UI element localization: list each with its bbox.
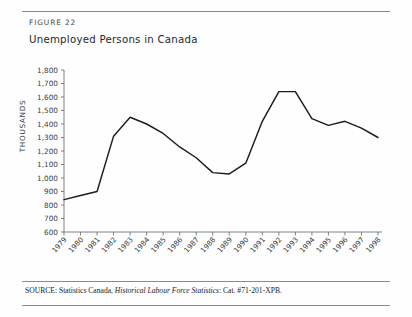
source-publication-title: Historical Labour Force Statistics xyxy=(115,286,219,295)
x-axis-tick-label: 1981 xyxy=(83,235,102,254)
x-axis-tick-label: 1997 xyxy=(347,235,366,254)
y-axis-tick-label: 1,100 xyxy=(37,160,58,169)
x-axis-tick-label: 1998 xyxy=(364,235,383,255)
y-axis-tick-label: 1,700 xyxy=(37,79,58,88)
source-note: SOURCE: Statistics Canada, Historical La… xyxy=(25,286,282,295)
x-axis-tick-label: 1993 xyxy=(281,235,300,254)
x-axis-tick-label: 1987 xyxy=(182,235,201,254)
y-axis-tick-label: 1,300 xyxy=(37,133,58,142)
x-axis-tick-label: 1984 xyxy=(132,235,151,255)
x-axis-tick-label: 1990 xyxy=(232,235,251,255)
y-axis-tick-label: 1,600 xyxy=(37,93,58,102)
source-suffix: : Cat. #71-201-XPB. xyxy=(219,286,282,295)
x-axis-tick-label: 1982 xyxy=(99,235,118,254)
x-axis-tick-label: 1992 xyxy=(265,235,284,254)
top-divider xyxy=(22,11,390,12)
y-axis-tick-label: 900 xyxy=(44,187,58,196)
x-axis-tick-label: 1980 xyxy=(66,235,85,255)
x-axis-tick-label: 1989 xyxy=(215,235,234,255)
figure-label: FIGURE 22 xyxy=(29,18,76,27)
bottom-divider xyxy=(22,305,390,306)
x-axis-tick-label: 1983 xyxy=(116,235,135,254)
y-axis-tick-label: 800 xyxy=(44,201,58,210)
x-axis-tick-label: 1988 xyxy=(198,235,217,255)
source-divider xyxy=(22,281,390,282)
y-axis-tick-label: 1,000 xyxy=(37,174,58,183)
chart-area: THOUSANDS 6007008009001,0001,1001,2001,3… xyxy=(0,56,412,281)
data-series-line xyxy=(64,92,378,200)
y-axis-tick-label: 1,500 xyxy=(37,106,58,115)
line-chart: 6007008009001,0001,1001,2001,3001,4001,5… xyxy=(0,56,412,281)
y-axis-tick-label: 600 xyxy=(44,228,58,237)
figure-title: Unemployed Persons in Canada xyxy=(29,34,198,45)
x-axis-tick-label: 1995 xyxy=(314,235,333,254)
source-prefix: SOURCE: Statistics Canada, xyxy=(25,286,115,295)
x-axis-tick-label: 1996 xyxy=(331,235,350,255)
x-axis-tick-label: 1986 xyxy=(165,235,184,255)
y-axis-tick-label: 1,200 xyxy=(37,147,58,156)
y-axis-tick-label: 1,800 xyxy=(37,66,58,75)
y-axis-tick-label: 700 xyxy=(44,214,58,223)
figure-page: FIGURE 22 Unemployed Persons in Canada T… xyxy=(0,0,412,317)
x-axis-tick-label: 1991 xyxy=(248,235,267,254)
x-axis-tick-label: 1985 xyxy=(149,235,168,254)
x-axis-tick-label: 1979 xyxy=(50,235,69,255)
y-axis-tick-label: 1,400 xyxy=(37,120,58,129)
x-axis-tick-label: 1994 xyxy=(298,235,317,255)
